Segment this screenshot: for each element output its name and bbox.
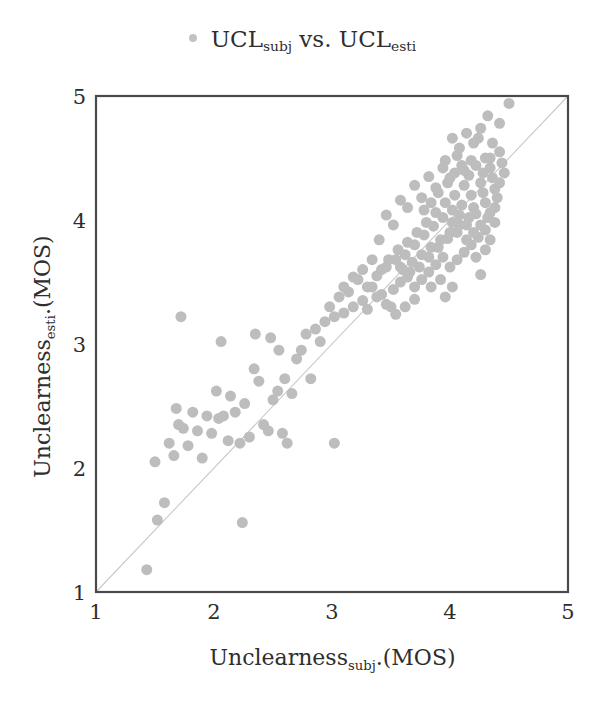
scatter-point [192,425,203,436]
scatter-point [237,517,248,528]
x-tick-1: 1 [83,600,109,624]
scatter-point [449,190,460,201]
scatter-point [496,157,507,168]
y-axis-label-suffix: .(MOS) [30,235,55,315]
scatter-point [499,167,510,178]
scatter-point [334,291,345,302]
scatter-point [216,336,227,347]
scatter-point [480,244,491,255]
scatter-point [442,177,453,188]
scatter-point [482,110,493,121]
scatter-point [419,205,430,216]
scatter-point [397,264,408,275]
scatter-point [348,272,359,283]
scatter-point [324,301,335,312]
scatter-point [426,281,437,292]
scatter-point [159,497,170,508]
scatter-point [282,438,293,449]
scatter-point [357,264,368,275]
y-tick-4: 4 [60,209,86,233]
scatter-point [383,254,394,265]
x-tick-4: 4 [437,600,463,624]
x-axis-label-suffix: .(MOS) [376,645,456,670]
scatter-point [416,249,427,260]
scatter-point [393,244,404,255]
scatter-point [478,187,489,198]
scatter-point [461,128,472,139]
scatter-point [478,167,489,178]
scatter-point [447,217,458,228]
scatter-point [150,456,161,467]
scatter-point [475,123,486,134]
scatter-point [475,177,486,188]
scatter-point [463,212,474,223]
scatter-point [234,438,245,449]
scatter-point [223,435,234,446]
x-tick-2: 2 [201,600,227,624]
scatter-point [244,432,255,443]
identity-reference-line [96,96,568,592]
scatter-point [445,227,456,238]
scatter-point [426,242,437,253]
scatter-point [348,301,359,312]
x-axis-label-main: Unclearness [209,645,348,670]
scatter-point [206,428,217,439]
y-axis-label-sub: esti [42,315,57,339]
scatter-point [480,197,491,208]
scatter-point [211,386,222,397]
scatter-point [504,98,515,109]
scatter-point [421,217,432,228]
scatter-point [376,264,387,275]
scatter-point [468,138,479,149]
scatter-point [466,190,477,201]
scatter-point [315,336,326,347]
scatter-point [338,281,349,292]
scatter-point [468,202,479,213]
scatter-point [461,234,472,245]
scatter-point [492,192,503,203]
scatter-point [197,453,208,464]
scatter-point [310,324,321,335]
scatter-point [171,403,182,414]
y-axis-label-main: Unclearness [30,339,55,478]
scatter-point [485,153,496,164]
scatter-point [152,515,163,526]
scatter-point [423,171,434,182]
scatter-point [249,363,260,374]
scatter-point [286,388,297,399]
scatter-point [454,143,465,154]
scatter-point [388,219,399,230]
scatter-point [279,373,290,384]
scatter-point [175,311,186,322]
scatter-point [449,167,460,178]
scatter-point [435,274,446,285]
scatter-point [494,118,505,129]
identity-line [96,96,568,592]
scatter-point [239,398,250,409]
scatter-point [416,192,427,203]
scatter-point [470,252,481,263]
y-axis-label: Unclearnessesti.(MOS) [30,147,55,567]
scatter-point [253,376,264,387]
scatter-point [362,304,373,315]
scatter-point [338,308,349,319]
scatter-point [409,294,420,305]
scatter-point [395,195,406,206]
scatter-point [371,291,382,302]
scatter-point [456,200,467,211]
scatter-point [381,299,392,310]
scatter-point [411,227,422,238]
scatter-point [381,210,392,221]
y-tick-3: 3 [60,333,86,357]
scatter-point [489,202,500,213]
scatter-points-group [141,98,514,575]
scatter-point [407,257,418,268]
scatter-point [187,407,198,418]
scatter-point [487,138,498,149]
scatter-point [218,410,229,421]
scatter-point [440,197,451,208]
scatter-point [435,234,446,245]
scatter-point [296,345,307,356]
x-axis-label-sub: subj [348,658,376,673]
scatter-point [301,329,312,340]
